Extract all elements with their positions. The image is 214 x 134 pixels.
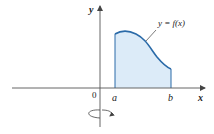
x-axis-label: x [197,92,203,103]
curve-label: y = f(x) [157,18,185,28]
a-label: a [112,92,117,103]
b-label: b [168,92,173,103]
y-axis-label: y [88,4,94,15]
origin-label: 0 [92,90,97,100]
label-pointer [146,30,156,41]
solid-of-revolution-diagram: y x 0 a b y = f(x) [0,0,214,134]
